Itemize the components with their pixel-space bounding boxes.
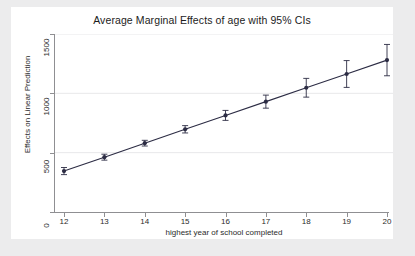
- data-point-marker: [62, 169, 66, 173]
- y-tick-mark: [50, 34, 54, 35]
- data-point-marker: [102, 155, 106, 159]
- plot-area: [55, 34, 393, 212]
- y-axis-title: Effects on Linear Prediction: [23, 35, 32, 175]
- y-tick-label: 1000: [42, 92, 51, 122]
- data-point-marker: [143, 141, 147, 145]
- data-point-marker: [304, 86, 308, 90]
- x-tick-label: 19: [335, 217, 359, 226]
- data-point-marker: [223, 113, 227, 117]
- y-tick-label: 500: [42, 151, 51, 181]
- data-point-marker: [385, 58, 389, 62]
- y-tick-mark: [50, 212, 54, 213]
- x-tick-label: 12: [52, 217, 76, 226]
- data-point-marker: [183, 127, 187, 131]
- x-tick-label: 18: [294, 217, 318, 226]
- x-tick-label: 16: [214, 217, 238, 226]
- x-tick-label: 15: [173, 217, 197, 226]
- x-tick-label: 17: [254, 217, 278, 226]
- y-tick-mark: [50, 153, 54, 154]
- x-tick-label: 14: [133, 217, 157, 226]
- data-point-marker: [264, 100, 268, 104]
- chart-title: Average Marginal Effects of age with 95%…: [11, 14, 393, 26]
- y-tick-label: 1500: [42, 33, 51, 63]
- chart-screenshot: Average Marginal Effects of age with 95%…: [0, 0, 415, 256]
- y-tick-label: 0: [42, 211, 51, 241]
- x-tick-label: 20: [375, 217, 399, 226]
- x-axis-title: highest year of school completed: [55, 228, 393, 237]
- data-point-marker: [345, 72, 349, 76]
- x-tick-label: 13: [92, 217, 116, 226]
- series-plot: [55, 34, 393, 212]
- y-tick-mark: [50, 93, 54, 94]
